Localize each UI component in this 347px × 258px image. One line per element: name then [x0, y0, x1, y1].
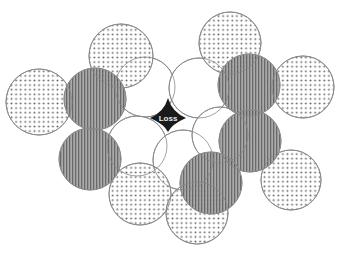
overlapping-circles-diagram: Loss [0, 0, 347, 258]
loss-label: Loss [159, 114, 178, 123]
